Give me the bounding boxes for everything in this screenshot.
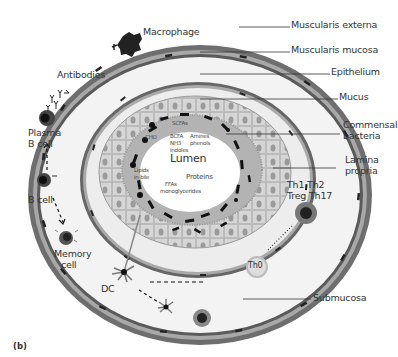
label-submucosa: Submucosa bbox=[313, 293, 366, 304]
label-th0: Th0 bbox=[248, 261, 262, 270]
label-scfas: SCFAs bbox=[172, 120, 188, 126]
label-plasma-b-cell-line2: B cell bbox=[28, 139, 53, 150]
label-th-subsets-line2: Treg Th17 bbox=[287, 191, 332, 202]
gut-cross-section-diagram: Macrophage Muscularis externa Muscularis… bbox=[0, 0, 398, 357]
label-bcfa-line1: BCFA bbox=[170, 133, 183, 139]
label-muscularis-externa: Muscularis externa bbox=[291, 20, 377, 31]
label-antibodies: Antibodies bbox=[57, 70, 105, 81]
label-commensal-bacteria-line2: bacteria bbox=[343, 131, 380, 142]
label-epithelium: Epithelium bbox=[331, 67, 380, 78]
label-ffas-line2: monoglycerides bbox=[160, 188, 201, 194]
label-dc: DC bbox=[101, 284, 115, 295]
th-effector-cell bbox=[295, 202, 317, 224]
bottom-cell bbox=[193, 309, 211, 327]
label-lamina-propria-line2: propria bbox=[345, 166, 378, 177]
label-bcfa-line2: NH3 bbox=[170, 140, 181, 146]
label-mucus: Mucus bbox=[339, 92, 368, 103]
label-lipids-line2: in bile bbox=[134, 174, 149, 180]
label-b-cell: B cell bbox=[28, 195, 53, 206]
figure-panel-tag: (b) bbox=[13, 341, 27, 351]
label-lipids-line1: Lipids bbox=[134, 167, 149, 173]
label-memory-cell-line2: cell bbox=[61, 260, 77, 271]
label-amines-line2: phenols bbox=[190, 140, 210, 146]
label-macrophage: Macrophage bbox=[143, 27, 200, 38]
label-bcfa-line3: indoles bbox=[170, 147, 188, 153]
macrophage-cell bbox=[112, 32, 142, 57]
label-muscularis-mucosa: Muscularis mucosa bbox=[291, 45, 378, 56]
plasma-b-cell bbox=[39, 110, 55, 126]
label-proteins: Proteins bbox=[186, 173, 213, 181]
label-amines-line1: Amines bbox=[190, 133, 209, 139]
label-ffas-line1: FFAs bbox=[165, 181, 177, 187]
label-cho: CHO bbox=[145, 134, 157, 140]
label-lumen: Lumen bbox=[170, 153, 206, 166]
